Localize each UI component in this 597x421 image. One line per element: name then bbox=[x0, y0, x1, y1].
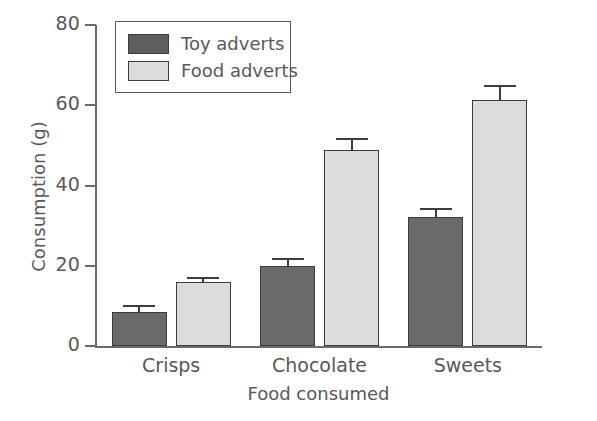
chart-legend: Toy adverts Food adverts bbox=[115, 21, 291, 93]
y-axis-line bbox=[95, 25, 97, 348]
error-bar-cap-sweets-0 bbox=[420, 208, 452, 210]
bar-crisps-toy-adverts bbox=[112, 312, 167, 346]
plot-area: 020406080 Consumption (g) CrispsChocolat… bbox=[0, 0, 597, 421]
legend-item-toy-adverts: Toy adverts bbox=[116, 30, 290, 57]
bar-sweets-food-adverts bbox=[472, 100, 527, 346]
y-tick-0 bbox=[85, 345, 96, 347]
y-tick-label-0: 0 bbox=[20, 333, 80, 355]
bar-crisps-food-adverts bbox=[176, 282, 231, 346]
legend-swatch-icon-food-adverts bbox=[128, 61, 169, 81]
x-axis-title: Food consumed bbox=[95, 383, 542, 404]
bar-chocolate-toy-adverts bbox=[260, 266, 315, 346]
y-tick-20 bbox=[85, 265, 96, 267]
bar-chocolate-food-adverts bbox=[324, 150, 379, 346]
error-bar-cap-chocolate-0 bbox=[272, 258, 304, 260]
error-bar-cap-crisps-1 bbox=[187, 277, 219, 279]
x-category-label-sweets: Sweets bbox=[378, 354, 558, 376]
y-tick-40 bbox=[85, 185, 96, 187]
legend-item-food-adverts: Food adverts bbox=[116, 57, 290, 84]
legend-label-food-adverts: Food adverts bbox=[181, 60, 298, 81]
y-axis-title: Consumption (g) bbox=[28, 87, 49, 307]
y-tick-60 bbox=[85, 104, 96, 106]
error-bar-cap-sweets-1 bbox=[484, 85, 516, 87]
error-bar-cap-chocolate-1 bbox=[336, 138, 368, 140]
x-axis-line bbox=[95, 346, 542, 348]
chart-figure: 020406080 Consumption (g) CrispsChocolat… bbox=[0, 0, 597, 421]
legend-label-toy-adverts: Toy adverts bbox=[181, 33, 284, 54]
error-bar-stem-sweets-1 bbox=[499, 85, 501, 101]
bar-sweets-toy-adverts bbox=[408, 217, 463, 346]
legend-swatch-icon-toy-adverts bbox=[128, 34, 169, 54]
y-tick-label-80: 80 bbox=[20, 12, 80, 34]
error-bar-cap-crisps-0 bbox=[123, 305, 155, 307]
y-tick-80 bbox=[85, 24, 96, 26]
